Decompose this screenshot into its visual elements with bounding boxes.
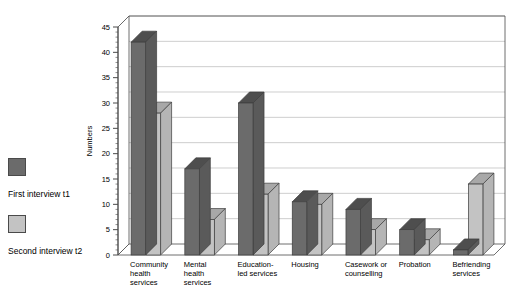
y-tick-label: 0 — [106, 251, 110, 260]
y-tick-label: 35 — [102, 73, 110, 82]
legend-swatch-t1 — [8, 158, 26, 176]
bar-series-group — [131, 31, 494, 255]
x-category-label: Befriending — [452, 260, 490, 269]
x-category-label: Mental — [184, 260, 207, 269]
bar-t1 — [239, 92, 264, 255]
x-category-label: services — [184, 278, 212, 287]
bar-t1 — [131, 31, 157, 255]
x-category-label: Housing — [291, 260, 319, 269]
chart-legend: First interview t1 Second interview t2 — [8, 158, 103, 272]
x-category-label: counselling — [345, 269, 383, 278]
x-category-label: led services — [238, 269, 278, 278]
y-tick-label: 25 — [102, 124, 110, 133]
x-category-label: Probation — [399, 260, 431, 269]
bar-t1 — [346, 198, 372, 255]
x-category-label: services — [452, 269, 480, 278]
legend-label-t2: Second interview t2 — [8, 246, 82, 256]
legend-swatch-t2 — [8, 215, 26, 233]
legend-label-t1: First interview t1 — [8, 189, 70, 199]
x-category-label: health — [184, 269, 204, 278]
x-category-label: Casework or — [345, 260, 388, 269]
y-axis-title: Numbers — [85, 126, 94, 157]
bar-t1 — [292, 191, 318, 255]
x-category-label: Community — [130, 260, 168, 269]
x-category-label: health — [130, 269, 150, 278]
y-tick-label: 5 — [106, 225, 110, 234]
legend-entry-t2: Second interview t2 — [8, 215, 103, 258]
bar-t1 — [185, 158, 211, 255]
x-axis-category-labels: CommunityhealthservicesMentalhealthservi… — [130, 260, 490, 287]
legend-entry-t1: First interview t1 — [8, 158, 103, 201]
y-axis-title-text: Numbers — [85, 126, 94, 157]
y-tick-label: 30 — [102, 99, 110, 108]
bar-chart: First interview t1 Second interview t2 0… — [0, 0, 506, 294]
x-category-label: services — [130, 278, 158, 287]
y-tick-label: 45 — [102, 23, 110, 32]
y-tick-label: 40 — [102, 48, 110, 57]
x-category-label: Education- — [238, 260, 274, 269]
